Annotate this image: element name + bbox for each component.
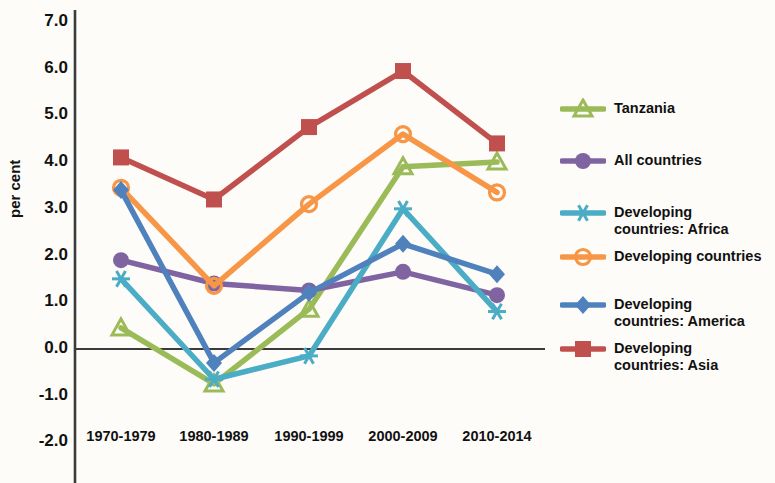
data-point-marker-square <box>395 63 411 79</box>
data-point-marker-diamond <box>575 296 591 314</box>
legend-swatch-icon <box>560 202 606 224</box>
data-point-marker-diamond <box>489 265 505 283</box>
legend-item-4[interactable]: Developing countries: America <box>560 294 745 330</box>
data-point-marker-square <box>575 341 591 357</box>
legend-item-1[interactable]: All countries <box>560 150 702 172</box>
data-point-marker-circle <box>113 252 129 268</box>
legend-swatch-icon <box>560 338 606 360</box>
legend-swatch-icon <box>560 246 606 268</box>
data-point-marker-square <box>301 119 317 135</box>
data-point-marker-circle <box>489 287 505 303</box>
data-point-marker-circle <box>395 264 411 280</box>
data-point-marker-square <box>206 191 222 207</box>
x-tick-label: 2010-2014 <box>442 428 552 444</box>
legend-label: Developing countries <box>614 246 761 265</box>
data-point-marker-square <box>489 135 505 151</box>
data-point-marker-square <box>113 149 129 165</box>
plot-area <box>0 0 775 483</box>
legend-label: Developing countries: Asia <box>614 338 718 374</box>
series-5 <box>113 63 505 207</box>
data-series-group <box>112 63 506 391</box>
legend-item-2[interactable]: Developing countries: Africa <box>560 202 729 238</box>
x-tick-label: 1980-1989 <box>159 428 269 444</box>
legend-swatch-icon <box>560 294 606 316</box>
axes-lines <box>75 10 545 483</box>
legend-item-5[interactable]: Developing countries: Asia <box>560 338 718 374</box>
data-point-marker-circle <box>575 153 591 169</box>
series-3 <box>114 127 505 294</box>
chart-container: per cent 7.06.05.04.03.02.01.00.0-1.0-2.… <box>0 0 775 483</box>
series-4 <box>113 181 505 372</box>
data-point-marker-asterisk <box>574 205 592 221</box>
legend-label: Tanzania <box>614 98 675 117</box>
series-line <box>121 71 497 199</box>
legend-item-0[interactable]: Tanzania <box>560 98 675 120</box>
legend-item-3[interactable]: Developing countries <box>560 246 761 268</box>
legend-label: Developing countries: America <box>614 294 745 330</box>
legend-swatch-icon <box>560 150 606 172</box>
legend-swatch-icon <box>560 98 606 120</box>
data-point-marker-diamond <box>395 235 411 253</box>
legend-label: Developing countries: Africa <box>614 202 729 238</box>
series-line <box>121 134 497 286</box>
legend-label: All countries <box>614 150 702 169</box>
